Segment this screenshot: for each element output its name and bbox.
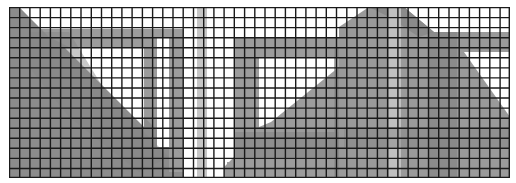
grid-picture xyxy=(9,7,510,178)
grid-image xyxy=(9,7,510,178)
